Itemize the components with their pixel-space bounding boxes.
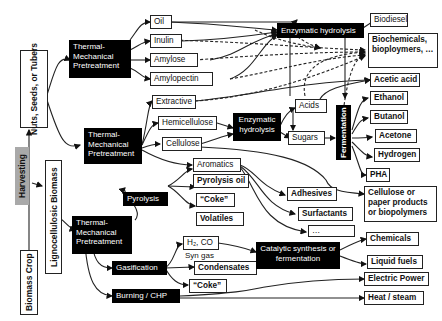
enzymatic-hydrolysis-mid: Enzymatic hydrolysis (233, 113, 281, 141)
acetic-acid-box: Acetic acid (370, 73, 420, 87)
nuts-seeds-tubers-box: Nuts, Seeds, or Tubers (20, 50, 48, 128)
biodiesel-box: Biodiesel (370, 13, 408, 27)
biochemicals-box: Biochemicals, bioploymers, … (368, 33, 438, 68)
lignocellulosic-biomass-box: Lignocellulosic Biomass (45, 160, 62, 274)
acids-box: Acids (295, 99, 327, 113)
cellulose-paper-box: Cellulose or paper products or biopolyme… (364, 186, 437, 222)
ellipsis-box: … (308, 225, 355, 237)
volatiles-box: Volatiles (196, 212, 244, 226)
hydrogen-box: Hydrogen (374, 148, 420, 162)
gasification-box: Gasification (112, 261, 167, 275)
heat-steam-box: Heat / steam (364, 291, 424, 305)
biomass-crop-box: Biomass Crop (20, 250, 38, 315)
ethanol-box: Ethanol (370, 91, 408, 105)
oil-box: Oil (150, 15, 172, 29)
coke-pyrolysis-box: “Coke” (196, 193, 235, 207)
thermal-mechanical-pretreatment-top: Thermal-Mechanical Pretreatment (69, 40, 131, 78)
thermal-mechanical-pretreatment-bottom: Thermal-Mechanical Pretreatment (72, 216, 132, 254)
syn-gas-label: Syn gas (185, 251, 214, 260)
thermal-mechanical-pretreatment-mid: Thermal-Mechanical Pretreatment (84, 128, 142, 164)
extractive-box: Extractive (152, 95, 196, 109)
acetone-box: Acetone (375, 129, 417, 143)
burning-chp-box: Burning / CHP (112, 289, 180, 303)
liquid-fuels-box: Liquid fuels (367, 255, 423, 269)
surfactants-box: Surfactants (298, 207, 353, 221)
sugars-box: Sugars (288, 131, 325, 145)
inulin-box: Inulin (150, 34, 182, 48)
condensates-box: Condensates (194, 261, 257, 275)
catalytic-synthesis-box: Catalytic synthesis or fermentation (256, 242, 340, 269)
amylose-box: Amylose (150, 53, 198, 67)
adhesives-box: Adhesives (287, 187, 337, 201)
cellulose-box: Cellulose (162, 137, 202, 151)
amylopectin-box: Amylopectin (150, 72, 213, 86)
enzymatic-hydrolysis-top: Enzymatic hydrolysis (277, 23, 364, 38)
harvesting-label: Harvesting (15, 147, 29, 205)
pyrolysis-box: Pyrolysis (123, 192, 168, 206)
pyrolysis-oil-box: Pyrolysis oil (193, 174, 249, 188)
chemicals-box: Chemicals (366, 232, 419, 246)
butanol-box: Butanol (370, 110, 408, 124)
fermentation-box: Fermentation (336, 105, 351, 160)
pha-box: PHA (366, 168, 390, 182)
h2-co-box: H₂, CO (183, 236, 219, 250)
coke-gasification-box: “Coke” (189, 279, 227, 293)
conversion-diagram: Biomass Crop Harvesting Nuts, Seeds, or … (0, 0, 442, 321)
electric-power-box: Electric Power (364, 272, 429, 286)
aromatics-box: Aromatics (193, 158, 241, 172)
hemicellulose-box: Hemicellulose (158, 116, 217, 130)
